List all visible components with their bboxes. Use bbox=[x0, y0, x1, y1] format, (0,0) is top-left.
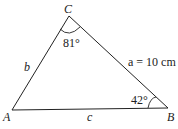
side-c-label: c bbox=[87, 110, 93, 124]
angle-b-label: 42° bbox=[131, 93, 148, 107]
angle-c-label: 81° bbox=[63, 36, 80, 50]
vertex-a-label: A bbox=[2, 110, 11, 124]
side-b-label: b bbox=[24, 60, 30, 74]
angle-c-arc bbox=[60, 27, 80, 33]
vertex-c-label: C bbox=[64, 2, 73, 16]
angle-b-arc bbox=[148, 97, 156, 108]
triangle-diagram: C A B 81° 42° b a = 10 cm c bbox=[0, 0, 178, 129]
vertex-b-label: B bbox=[167, 110, 175, 124]
side-a-label: a = 10 cm bbox=[128, 55, 176, 69]
